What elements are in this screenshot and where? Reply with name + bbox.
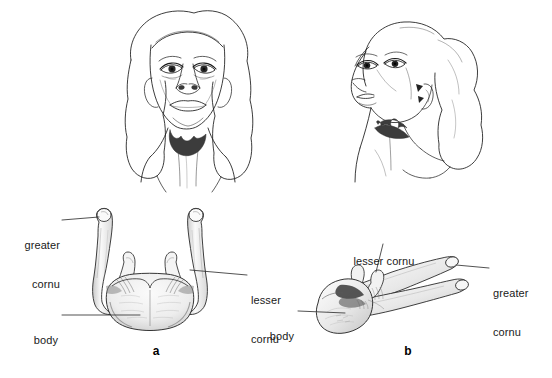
panel-caption-b: b <box>390 344 426 358</box>
label-body-b-line1: body <box>240 330 294 343</box>
label-lesser-cornu-b-line1: lesser cornu <box>334 255 434 268</box>
label-greater-cornu-b-line2: cornu <box>493 326 551 339</box>
panel-caption-a: a <box>138 344 174 358</box>
label-greater-cornu-a-line2: cornu <box>2 278 60 291</box>
label-lesser-cornu-b: lesser cornu <box>334 229 434 294</box>
hyoid-bone-figure: greater cornu lesser cornu body lesser c… <box>0 0 552 378</box>
label-greater-cornu-a-line1: greater <box>2 239 60 252</box>
label-body-b: body <box>240 304 294 369</box>
label-greater-cornu-b-line1: greater <box>493 287 551 300</box>
label-body-a-line1: body <box>2 334 58 347</box>
label-greater-cornu-b: greater cornu <box>493 261 551 365</box>
label-greater-cornu-a: greater cornu <box>2 213 60 317</box>
label-body-a: body <box>2 308 58 373</box>
